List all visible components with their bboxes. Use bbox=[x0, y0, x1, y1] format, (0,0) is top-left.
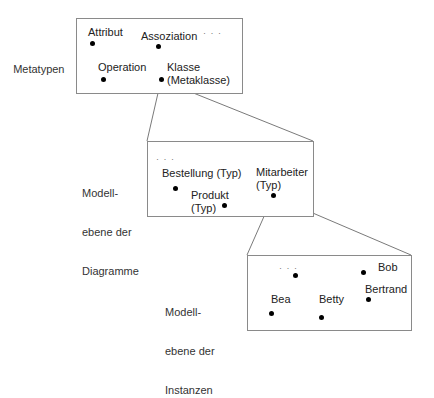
attribut-dot bbox=[90, 41, 95, 46]
mitarbeiter-dot bbox=[271, 193, 276, 198]
bob-dot bbox=[361, 270, 366, 275]
produkt-label: Produkt (Typ) bbox=[191, 189, 229, 215]
bertrand-dot bbox=[366, 297, 371, 302]
label-metatypen: Metatypen bbox=[7, 50, 65, 76]
produkt-dot bbox=[222, 203, 227, 208]
bea-label: Bea bbox=[271, 293, 291, 306]
bob-label: Bob bbox=[378, 261, 398, 274]
klasse-dot bbox=[159, 77, 164, 82]
instance-ellipsis: · · · bbox=[279, 264, 298, 273]
bea-dot bbox=[269, 311, 274, 316]
operation-dot bbox=[101, 77, 106, 82]
diagram-ellipsis: · · · bbox=[156, 155, 175, 164]
operation-label: Operation bbox=[98, 61, 146, 74]
label-modellebene-diagramme: Modell- ebene der Diagramme bbox=[82, 161, 139, 291]
klasse-label: Klasse (Metaklasse) bbox=[167, 61, 230, 87]
assoziation-label: Assoziation bbox=[141, 30, 197, 43]
mitarbeiter-label: Mitarbeiter (Typ) bbox=[256, 166, 308, 192]
label-modellebene-instanzen: Modell- ebene der Instanzen bbox=[165, 280, 215, 398]
ellipsis-instance-dot bbox=[293, 273, 298, 278]
betty-dot bbox=[319, 315, 324, 320]
bestellung-dot bbox=[173, 186, 178, 191]
assoziation-dot bbox=[156, 44, 161, 49]
meta-ellipsis: · · · bbox=[203, 29, 222, 38]
attribut-label: Attribut bbox=[88, 26, 123, 39]
bestellung-label: Bestellung (Typ) bbox=[162, 167, 241, 180]
betty-label: Betty bbox=[319, 293, 344, 306]
bertrand-label: Bertrand bbox=[365, 283, 407, 296]
